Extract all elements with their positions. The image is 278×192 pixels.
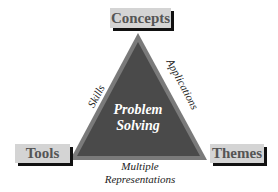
tools-label: Tools — [26, 145, 60, 161]
concepts-label: Concepts — [111, 10, 170, 26]
tools-box: Tools — [15, 144, 70, 163]
center-line1: Problem — [98, 102, 178, 118]
multiple-representations-label: Multiple Representations — [90, 160, 190, 186]
themes-label: Themes — [212, 145, 262, 161]
bottom-line2: Representations — [90, 173, 190, 186]
bottom-line1: Multiple — [90, 160, 190, 173]
concepts-box: Concepts — [110, 8, 171, 28]
themes-box: Themes — [210, 144, 264, 163]
center-line2: Solving — [98, 118, 178, 134]
problem-solving-label: Problem Solving — [98, 102, 178, 134]
